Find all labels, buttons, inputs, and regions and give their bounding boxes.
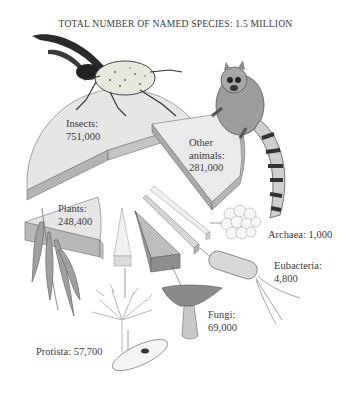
protista-label: Protista: 57,700	[36, 346, 103, 359]
other-animals-name-2: animals:	[189, 150, 225, 163]
insects-name: Insects:	[66, 118, 100, 131]
other-animals-name-1: Other	[189, 137, 225, 150]
protista-wedge	[114, 208, 131, 266]
lemur-tail	[254, 120, 285, 218]
other-animals-label: Other animals: 281,000	[189, 137, 225, 175]
algae-illustration	[92, 284, 152, 352]
paramecium-illustration	[109, 333, 172, 376]
plants-name: Plants:	[58, 203, 92, 216]
fungi-label: Fungi: 69,000	[208, 309, 237, 334]
fungi-name: Fungi:	[208, 309, 237, 322]
plants-value: 248,400	[58, 216, 92, 229]
insects-label: Insects: 751,000	[66, 118, 100, 143]
other-animals-value: 281,000	[189, 162, 225, 175]
fungi-value: 69,000	[208, 322, 237, 335]
eubacteria-label: Eubacteria: 4,800	[274, 260, 322, 285]
archaea-label: Archaea: 1,000	[268, 229, 332, 242]
archaea-illustration	[210, 205, 261, 239]
eubacteria-value: 4,800	[274, 273, 322, 286]
pie-chart	[0, 0, 351, 393]
eubacteria-name: Eubacteria:	[274, 260, 322, 273]
plants-label: Plants: 248,400	[58, 203, 92, 228]
insects-value: 751,000	[66, 131, 100, 144]
